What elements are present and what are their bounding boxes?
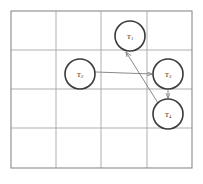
node-t3[interactable]: T3: [153, 59, 183, 89]
grid-group: [11, 11, 192, 168]
node-t1[interactable]: T1: [115, 21, 145, 51]
outer-frame: [11, 11, 192, 168]
diagram-canvas: T1T2T3T4: [0, 0, 203, 184]
frame-group: [11, 11, 192, 168]
diagram-svg: T1T2T3T4: [0, 0, 203, 184]
arrow-t2-to-t3: [96, 72, 152, 74]
node-t2[interactable]: T2: [65, 59, 95, 89]
node-t4[interactable]: T4: [153, 99, 183, 129]
nodes-group: T1T2T3T4: [65, 21, 183, 129]
